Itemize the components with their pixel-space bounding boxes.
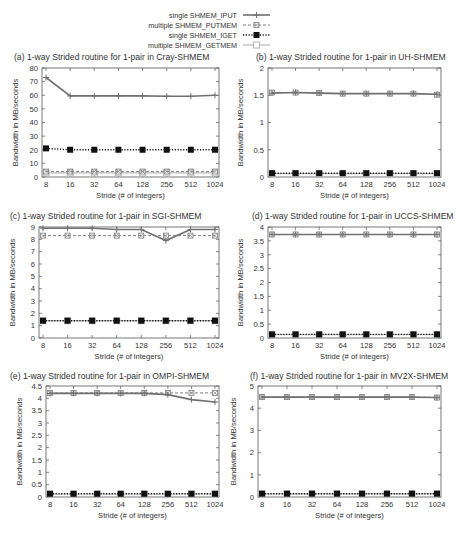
x-tick-label: 64 xyxy=(112,341,120,350)
x-tick-label: 8 xyxy=(260,500,264,509)
y-tick-label: 1 xyxy=(31,321,35,330)
plot-area xyxy=(42,68,219,177)
x-tick-label: 256 xyxy=(160,180,173,189)
filled-square-marker-icon xyxy=(91,147,97,153)
x-tick-label: 16 xyxy=(291,341,299,350)
y-axis-label: Bandwidth in MB/seconds xyxy=(229,398,238,486)
y-tick-label: 1 xyxy=(260,306,264,315)
y-tick-label: 3.5 xyxy=(31,406,42,415)
x-tick-label: 32 xyxy=(315,180,323,189)
plus-marker-icon xyxy=(164,93,170,99)
y-tick-label: 1 xyxy=(250,471,254,480)
y-tick-label: 0.5 xyxy=(253,320,264,329)
x-axis-label: Stride (# of integers) xyxy=(320,191,389,200)
chart-title: (a) 1-way Strided routine for 1-pair in … xyxy=(14,52,209,62)
y-tick-label: 0 xyxy=(260,334,264,343)
series-line xyxy=(50,393,215,402)
open-square-marker-icon xyxy=(67,170,73,176)
x-tick-label: 8 xyxy=(44,180,48,189)
x-tick-label: 512 xyxy=(185,500,198,509)
filled-square-marker-icon xyxy=(118,491,124,497)
filled-square-marker-icon xyxy=(387,331,393,337)
x-tick-label: 64 xyxy=(116,500,124,509)
x-tick-label: 1024 xyxy=(429,500,446,509)
x-tick-label: 256 xyxy=(384,341,397,350)
y-tick-label: 1 xyxy=(260,118,264,127)
y-axis-label: Bandwidth in MB/seconds xyxy=(8,239,17,327)
filled-square-marker-icon xyxy=(188,491,194,497)
x-tick-label: 256 xyxy=(384,180,397,189)
plus-marker-icon xyxy=(91,93,97,99)
y-tick-label: 0 xyxy=(34,173,38,182)
x-tick-label: 512 xyxy=(406,500,419,509)
filled-square-marker-icon xyxy=(340,170,346,176)
open-square-marker-icon xyxy=(43,170,49,176)
filled-square-marker-icon xyxy=(409,491,415,497)
y-tick-label: 0.5 xyxy=(253,146,264,155)
x-tick-label: 16 xyxy=(69,500,77,509)
filled-square-marker-icon xyxy=(340,331,346,337)
y-tick-label: 0.5 xyxy=(31,480,42,489)
filled-square-marker-icon xyxy=(138,318,144,324)
y-tick-label: 3.5 xyxy=(253,237,264,246)
x-tick-label: 256 xyxy=(160,341,173,350)
legend-label: single SHMEM_IGET xyxy=(169,31,238,40)
chart-panel-sgi: (c) 1-way Strided routine for 1-pair in … xyxy=(8,211,223,361)
y-tick-label: 2 xyxy=(31,309,35,318)
y-axis-label: Bandwidth in MB/seconds xyxy=(236,79,245,167)
x-tick-label: 1024 xyxy=(429,341,446,350)
chart-title: (f) 1-way Strided routine for 1-pair in … xyxy=(250,371,448,381)
chart-panel-uh: (b) 1-way Strided routine for 1-pair in … xyxy=(236,52,446,200)
x-tick-label: 1024 xyxy=(429,180,446,189)
plus-marker-icon xyxy=(212,399,218,405)
y-tick-label: 50 xyxy=(30,105,38,114)
x-tick-label: 32 xyxy=(90,180,98,189)
y-tick-label: 2 xyxy=(260,278,264,287)
filled-square-marker-icon xyxy=(293,170,299,176)
plus-marker-icon xyxy=(89,225,95,231)
y-tick-label: 0 xyxy=(260,173,264,182)
x-axis-label: Stride (# of integers) xyxy=(96,191,165,200)
y-tick-label: 0 xyxy=(250,493,254,502)
y-tick-label: 20 xyxy=(30,146,38,155)
y-tick-label: 60 xyxy=(30,91,38,100)
x-tick-label: 128 xyxy=(356,500,369,509)
filled-square-marker-icon xyxy=(47,491,53,497)
x-tick-label: 64 xyxy=(333,500,341,509)
filled-square-marker-icon xyxy=(309,491,315,497)
plot-area xyxy=(268,227,441,338)
x-tick-label: 32 xyxy=(315,341,323,350)
y-tick-label: 1.5 xyxy=(253,292,264,301)
plus-marker-icon xyxy=(188,93,194,99)
x-tick-label: 128 xyxy=(136,180,149,189)
filled-square-marker-icon xyxy=(141,491,147,497)
x-axis-label: Stride (# of integers) xyxy=(95,352,164,361)
x-tick-label: 64 xyxy=(114,180,122,189)
open-square-marker-icon xyxy=(115,170,121,176)
y-tick-label: 8 xyxy=(31,235,35,244)
y-tick-label: 2 xyxy=(260,64,264,73)
y-tick-label: 1 xyxy=(38,468,42,477)
y-axis-label: Bandwidth in MB/seconds xyxy=(15,398,24,486)
x-tick-label: 512 xyxy=(407,180,420,189)
filled-square-marker-icon xyxy=(165,491,171,497)
x-tick-label: 64 xyxy=(338,341,346,350)
y-tick-label: 4 xyxy=(31,284,35,293)
filled-square-marker-icon xyxy=(363,331,369,337)
series-line xyxy=(46,78,215,97)
filled-square-marker-icon xyxy=(434,170,440,176)
x-tick-label: 1024 xyxy=(207,341,224,350)
filled-square-marker-icon xyxy=(65,318,71,324)
x-tick-label: 8 xyxy=(48,500,52,509)
x-tick-label: 16 xyxy=(291,180,299,189)
x-tick-label: 256 xyxy=(162,500,175,509)
x-tick-label: 32 xyxy=(308,500,316,509)
x-tick-label: 128 xyxy=(360,180,373,189)
x-tick-label: 16 xyxy=(63,341,71,350)
y-tick-label: 5 xyxy=(31,272,35,281)
y-tick-label: 3 xyxy=(31,297,35,306)
y-tick-label: 30 xyxy=(30,132,38,141)
y-tick-label: 5 xyxy=(250,382,254,391)
chart-title: (b) 1-way Strided routine for 1-pair in … xyxy=(256,52,446,62)
filled-square-marker-icon xyxy=(269,331,275,337)
